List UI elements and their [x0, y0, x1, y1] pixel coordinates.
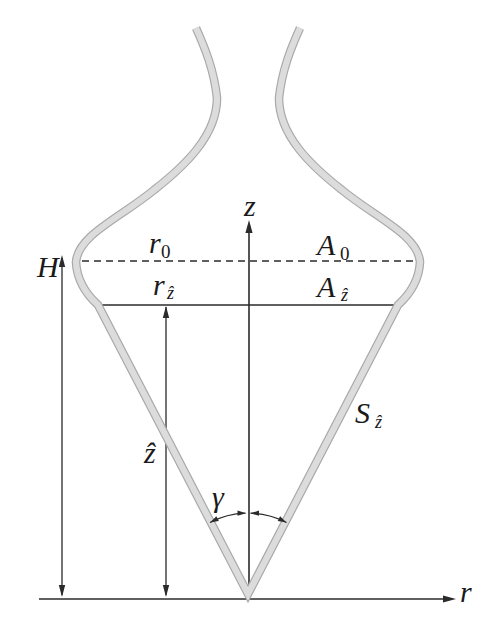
- r0-label-base: r: [149, 226, 161, 259]
- a0-label-subscript: 0: [340, 243, 350, 264]
- height-bottom-arrowhead: [59, 585, 65, 597]
- height-top-arrowhead: [59, 255, 65, 267]
- r-axis-label: r: [460, 575, 472, 608]
- rz-label-base: r: [153, 268, 165, 301]
- r-axis-arrowhead: [443, 595, 456, 602]
- gamma-arc-right-axis-arrowhead: [251, 511, 260, 516]
- height-label: H: [36, 250, 61, 283]
- a0-label-base: A: [315, 228, 336, 261]
- r0-label-subscript: 0: [161, 241, 171, 262]
- rz-label-subscript: ẑ: [166, 283, 175, 303]
- vessel-wall-fill: [76, 28, 420, 594]
- az-label-subscript: ẑ: [340, 285, 349, 305]
- surface-label-base: S: [355, 396, 370, 429]
- surface-label-subscript: ẑ: [374, 412, 383, 432]
- figure-canvas: z r H r 0 A 0 r ẑ A ẑ ẑ γ S ẑ: [0, 0, 496, 640]
- zhat-top-arrowhead: [163, 306, 169, 318]
- gamma-arc-left-axis-arrowhead: [238, 511, 247, 516]
- gamma-label: γ: [212, 480, 225, 513]
- az-label-base: A: [315, 270, 336, 303]
- zhat-bottom-arrowhead: [163, 585, 169, 597]
- vessel-wall-outline: [76, 28, 420, 594]
- z-axis-label: z: [243, 189, 256, 222]
- vessel-diagram-svg: z r H r 0 A 0 r ẑ A ẑ ẑ γ S ẑ: [0, 0, 496, 640]
- zhat-label: ẑ: [143, 436, 156, 469]
